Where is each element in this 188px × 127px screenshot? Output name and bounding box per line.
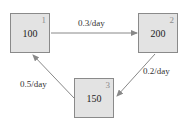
node-index: 3 (106, 80, 111, 90)
edge-3-1-label: 0.5/day (20, 79, 47, 89)
node-value: 200 (139, 28, 177, 39)
edge-1-2-label: 0.3/day (78, 18, 105, 28)
edge-2-3-label: 0.2/day (143, 66, 170, 76)
node-2: 2 200 (138, 13, 178, 53)
node-index: 2 (170, 15, 175, 25)
node-3: 3 150 (74, 78, 114, 118)
node-index: 1 (42, 15, 47, 25)
node-1: 1 100 (10, 13, 50, 53)
node-value: 100 (11, 28, 49, 39)
node-value: 150 (75, 93, 113, 104)
edge-3-1-arrow (33, 55, 74, 98)
